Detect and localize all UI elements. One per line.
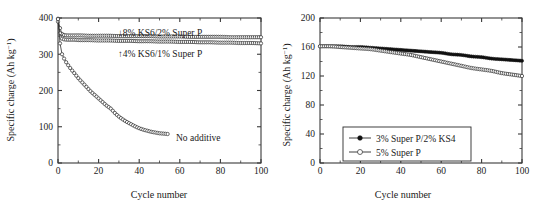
right-yaxis-title-tail: ) [281, 43, 293, 46]
x-tick-label: 100 [515, 166, 530, 176]
data-marker [520, 74, 523, 77]
data-marker [64, 61, 67, 64]
y-tick-label: 200 [301, 13, 316, 23]
x-tick-label: 40 [134, 166, 144, 176]
data-marker [259, 36, 262, 39]
y-tick-label: 120 [301, 71, 316, 81]
data-marker [60, 53, 63, 56]
y-tick-label: 0 [48, 158, 53, 168]
annotation-8pct: ↓8% KS6/2% Super P [118, 28, 202, 38]
data-marker [166, 132, 169, 135]
y-tick-label: 400 [39, 13, 54, 23]
right-yaxis-title-group: Specific charge (Ah kg−1) [281, 43, 293, 146]
data-marker [56, 17, 59, 20]
svg-text:Specific charge (Ah kg−1): Specific charge (Ah kg−1) [281, 43, 293, 146]
y-tick-label: 200 [39, 86, 54, 96]
left-yaxis-title-group: Specific charge (Ah kg−1) [5, 38, 17, 141]
right-chart-svg: 02040608010004080120160200 Cycle number … [275, 0, 550, 216]
right-curves [318, 45, 523, 78]
y-tick-label: 40 [306, 129, 316, 139]
left-chart-svg: 0204060801000100200300400 Cycle number S… [0, 0, 275, 216]
x-tick-label: 0 [318, 166, 323, 176]
data-marker [520, 59, 523, 62]
data-marker [259, 42, 262, 45]
right-xaxis-title: Cycle number [375, 189, 432, 200]
x-tick-label: 60 [436, 166, 446, 176]
x-tick-label: 20 [94, 166, 104, 176]
y-tick-label: 160 [301, 42, 316, 52]
data-marker [58, 42, 61, 45]
x-tick-label: 60 [175, 166, 185, 176]
left-xaxis-title: Cycle number [131, 189, 188, 200]
legend-entry-superp: 5% Super P [376, 148, 421, 158]
chart-legend: 3% Super P/2% KS4 5% Super P [343, 127, 471, 161]
legend-marker-open-circle [358, 150, 363, 155]
legend-entry-superp-ks4: 3% Super P/2% KS4 [376, 134, 456, 144]
left-yaxis-title: Specific charge (Ah kg [5, 49, 17, 141]
y-tick-label: 0 [310, 158, 315, 168]
chart-panel-left: 0204060801000100200300400 Cycle number S… [0, 0, 275, 216]
x-tick-label: 80 [216, 166, 226, 176]
y-tick-label: 300 [39, 50, 54, 60]
left-yaxis-title-tail: ) [5, 38, 17, 41]
data-marker [62, 57, 65, 60]
annotation-4pct: ↑4% KS6/1% Super P [118, 49, 202, 59]
y-tick-label: 80 [306, 100, 316, 110]
y-tick-label: 100 [39, 122, 54, 132]
right-yaxis-title: Specific charge (Ah kg [281, 54, 293, 146]
x-tick-label: 80 [477, 166, 487, 176]
chart-panel-right: 02040608010004080120160200 Cycle number … [275, 0, 550, 216]
x-tick-label: 100 [254, 166, 269, 176]
figure-container: 0204060801000100200300400 Cycle number S… [0, 0, 550, 216]
x-tick-label: 20 [356, 166, 366, 176]
x-tick-label: 40 [396, 166, 406, 176]
annotation-no-additive: No additive [176, 133, 221, 143]
legend-marker-filled-circle [358, 136, 363, 141]
svg-text:Specific charge (Ah kg−1): Specific charge (Ah kg−1) [5, 38, 17, 141]
x-tick-label: 0 [56, 166, 61, 176]
